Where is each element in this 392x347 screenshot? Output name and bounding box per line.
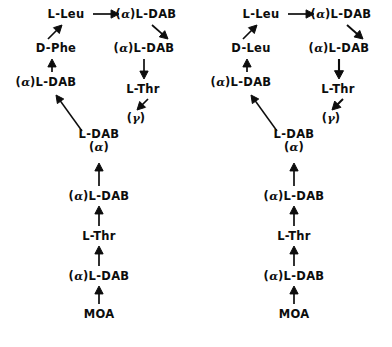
residue-text: MOA bbox=[84, 307, 115, 321]
arrow-head bbox=[95, 206, 103, 214]
residue-label: (α)L-DAB bbox=[114, 42, 175, 54]
arrow-head bbox=[290, 286, 298, 294]
arrow-head bbox=[290, 246, 298, 254]
residue-label: D-Phe bbox=[36, 42, 76, 54]
residue-text: L-DAB bbox=[274, 127, 315, 141]
arrow-head bbox=[290, 163, 298, 171]
residue-text: (α)L-DAB bbox=[264, 189, 325, 203]
residue-label: L-Thr bbox=[126, 83, 160, 95]
residue-text: (α)L-DAB bbox=[16, 75, 77, 89]
residue-text: MOA bbox=[279, 307, 310, 321]
residue-label: L-Thr bbox=[321, 83, 355, 95]
residue-label: L-Leu bbox=[243, 8, 280, 20]
structure-diagram: L-Leu(α)L-DABD-Phe(α)L-DAB(α)L-DABL-Thr(… bbox=[0, 0, 392, 347]
residue-label: MOA bbox=[84, 308, 115, 320]
residue-label: (γ) bbox=[127, 112, 146, 124]
residue-label: L-Thr bbox=[82, 230, 116, 242]
residue-label: L-DAB(α) bbox=[274, 128, 315, 154]
arrow-shaft bbox=[347, 25, 358, 34]
arrow-head bbox=[335, 71, 344, 79]
residue-text: L-Thr bbox=[82, 229, 116, 243]
arrow-head bbox=[95, 163, 103, 171]
residue-text: L-Leu bbox=[48, 7, 85, 21]
residue-label: (γ) bbox=[322, 112, 341, 124]
arrow-head bbox=[56, 95, 64, 104]
residue-text: (α)L-DAB bbox=[69, 189, 130, 203]
residue-text: D-Leu bbox=[231, 41, 270, 55]
residue-text: L-Leu bbox=[243, 7, 280, 21]
residue-text: D-Phe bbox=[36, 41, 76, 55]
residue-text: L-DAB bbox=[79, 127, 120, 141]
residue-label: MOA bbox=[279, 308, 310, 320]
residue-label: (α)L-DAB bbox=[116, 8, 177, 20]
arrow-head bbox=[251, 95, 259, 104]
residue-label: (α)L-DAB bbox=[211, 76, 272, 88]
residue-text: (α)L-DAB bbox=[114, 41, 175, 55]
residue-label: D-Leu bbox=[231, 42, 270, 54]
residue-label: L-DAB(α) bbox=[79, 128, 120, 154]
residue-label: (α)L-DAB bbox=[309, 42, 370, 54]
residue-label: (α)L-DAB bbox=[264, 190, 325, 202]
arrow-head bbox=[95, 286, 103, 294]
residue-text: (α)L-DAB bbox=[311, 7, 372, 21]
arrow-head bbox=[48, 59, 56, 67]
residue-label: L-Leu bbox=[48, 8, 85, 20]
residue-label: (α)L-DAB bbox=[264, 270, 325, 282]
residue-text: (γ) bbox=[127, 111, 146, 125]
residue-text: (α)L-DAB bbox=[309, 41, 370, 55]
arrow-head bbox=[290, 206, 298, 214]
residue-label: (α)L-DAB bbox=[16, 76, 77, 88]
residue-text: L-Thr bbox=[277, 229, 311, 243]
arrow-shaft bbox=[152, 25, 163, 35]
residue-text: (γ) bbox=[322, 111, 341, 125]
arrow-head bbox=[140, 71, 148, 79]
residue-text: (α)L-DAB bbox=[264, 269, 325, 283]
residue-label: L-Thr bbox=[277, 230, 311, 242]
residue-label: (α)L-DAB bbox=[69, 270, 130, 282]
arrow-shaft bbox=[243, 30, 252, 39]
residue-text: (α)L-DAB bbox=[69, 269, 130, 283]
residue-label: (α)L-DAB bbox=[69, 190, 130, 202]
residue-position-marker: (α) bbox=[274, 141, 315, 154]
residue-text: L-Thr bbox=[321, 82, 355, 96]
residue-text: (α)L-DAB bbox=[116, 7, 177, 21]
arrow-head bbox=[243, 59, 251, 67]
arrow-shaft bbox=[48, 30, 57, 39]
arrow-head bbox=[95, 246, 103, 254]
residue-text: (α)L-DAB bbox=[211, 75, 272, 89]
residue-label: (α)L-DAB bbox=[311, 8, 372, 20]
residue-position-marker: (α) bbox=[79, 141, 120, 154]
residue-text: L-Thr bbox=[126, 82, 160, 96]
